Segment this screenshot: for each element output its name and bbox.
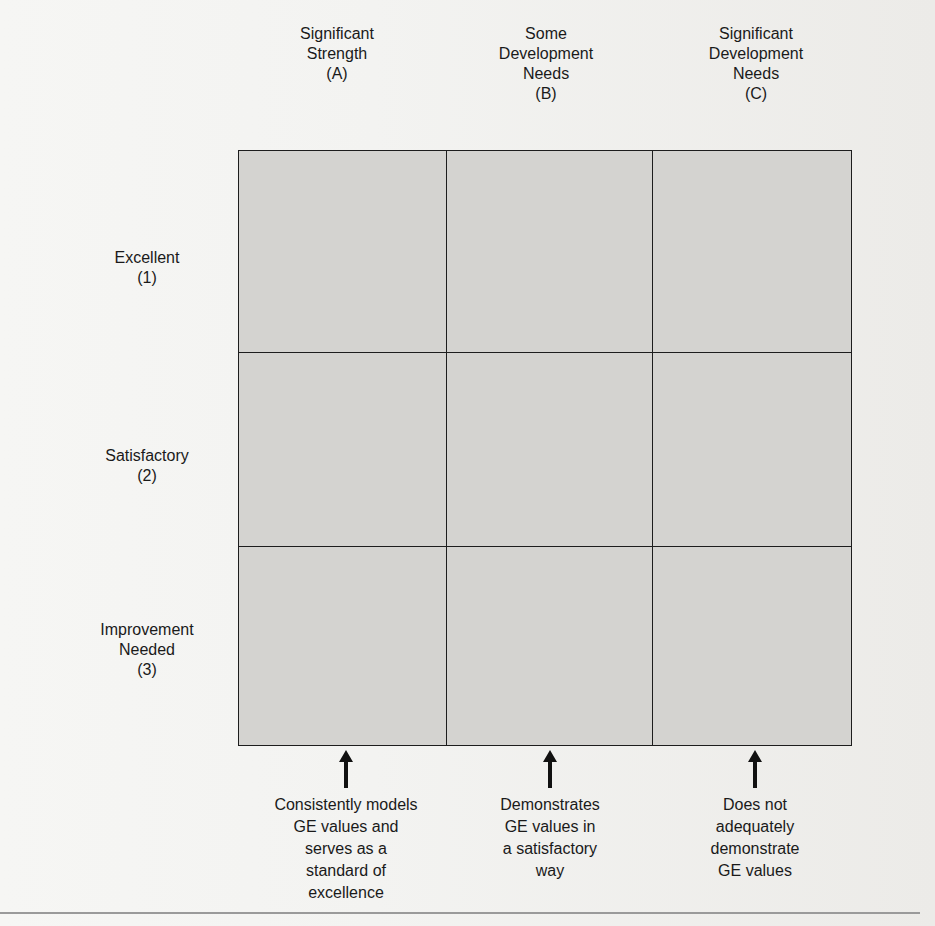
cell-3b bbox=[447, 547, 653, 745]
column-header-a: Significant Strength (A) bbox=[237, 24, 437, 84]
row-header-3: Improvement Needed (3) bbox=[62, 620, 232, 680]
column-header-line: Significant bbox=[656, 24, 856, 44]
description-line: Does not bbox=[655, 794, 855, 816]
description-line: standard of bbox=[246, 860, 446, 882]
column-header-line: (B) bbox=[446, 84, 646, 104]
matrix-grid bbox=[238, 150, 852, 746]
cell-1b bbox=[447, 151, 653, 353]
description-line: Demonstrates bbox=[450, 794, 650, 816]
arrow-up-icon bbox=[748, 750, 762, 788]
column-header-line: Significant bbox=[237, 24, 437, 44]
description-line: GE values in bbox=[450, 816, 650, 838]
description-b: Demonstrates GE values in a satisfactory… bbox=[450, 794, 650, 882]
column-header-line: Needs bbox=[446, 64, 646, 84]
description-line: serves as a bbox=[246, 838, 446, 860]
row-header-line: Excellent bbox=[62, 248, 232, 268]
description-line: GE values bbox=[655, 860, 855, 882]
column-header-c: Significant Development Needs (C) bbox=[656, 24, 856, 104]
column-header-line: Strength bbox=[237, 44, 437, 64]
description-line: adequately bbox=[655, 816, 855, 838]
column-header-line: Development bbox=[446, 44, 646, 64]
arrow-up-icon bbox=[543, 750, 557, 788]
description-line: Consistently models bbox=[246, 794, 446, 816]
arrow-up-icon bbox=[339, 750, 353, 788]
row-header-line: (2) bbox=[62, 466, 232, 486]
description-a: Consistently models GE values and serves… bbox=[246, 794, 446, 904]
description-line: a satisfactory bbox=[450, 838, 650, 860]
column-header-line: Development bbox=[656, 44, 856, 64]
cell-1a bbox=[239, 151, 447, 353]
cell-2a bbox=[239, 353, 447, 547]
description-c: Does not adequately demonstrate GE value… bbox=[655, 794, 855, 882]
cell-3a bbox=[239, 547, 447, 745]
cell-1c bbox=[653, 151, 851, 353]
column-header-line: Needs bbox=[656, 64, 856, 84]
cell-2b bbox=[447, 353, 653, 547]
column-header-line: (A) bbox=[237, 64, 437, 84]
row-header-2: Satisfactory (2) bbox=[62, 446, 232, 486]
row-header-line: (3) bbox=[62, 660, 232, 680]
column-header-line: (C) bbox=[656, 84, 856, 104]
description-line: excellence bbox=[246, 882, 446, 904]
cell-3c bbox=[653, 547, 851, 745]
description-line: way bbox=[450, 860, 650, 882]
bottom-divider bbox=[0, 912, 920, 914]
row-header-1: Excellent (1) bbox=[62, 248, 232, 288]
row-header-line: Needed bbox=[62, 640, 232, 660]
column-header-line: Some bbox=[446, 24, 646, 44]
column-header-b: Some Development Needs (B) bbox=[446, 24, 646, 104]
description-line: GE values and bbox=[246, 816, 446, 838]
cell-2c bbox=[653, 353, 851, 547]
row-header-line: Improvement bbox=[62, 620, 232, 640]
row-header-line: Satisfactory bbox=[62, 446, 232, 466]
row-header-line: (1) bbox=[62, 268, 232, 288]
description-line: demonstrate bbox=[655, 838, 855, 860]
